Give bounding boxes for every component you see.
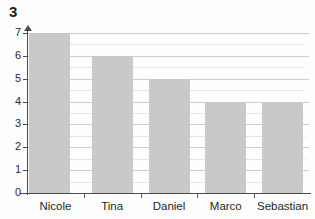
bar-marco [205, 102, 246, 193]
bar-sebastian [262, 102, 303, 193]
x-axis-label-nicole: Nicole [27, 199, 84, 213]
x-axis-tick-mark [197, 193, 198, 198]
bar-daniel [149, 79, 190, 193]
x-axis-tick-mark [84, 193, 85, 198]
y-axis-labels-group: 01234567 [0, 0, 21, 219]
x-axis-label-marco: Marco [197, 199, 254, 213]
x-axis-line [20, 193, 311, 194]
y-axis-tick-mark [23, 170, 28, 171]
y-axis-tick-label: 6 [5, 50, 21, 61]
y-axis-tick-mark [23, 102, 28, 103]
bar-tina [92, 56, 133, 193]
plot-area [27, 33, 311, 193]
y-axis-tick-mark [23, 33, 28, 34]
x-axis-label-sebastian: Sebastian [254, 199, 311, 213]
y-axis-tick-label: 7 [5, 27, 21, 38]
y-axis-tick-label: 5 [5, 73, 21, 84]
y-axis-tick-label: 4 [5, 96, 21, 107]
y-axis-tick-mark [23, 124, 28, 125]
y-axis-tick-mark [23, 79, 28, 80]
y-axis-tick-label: 1 [5, 164, 21, 175]
x-axis-tick-mark [254, 193, 255, 198]
y-axis-tick-label: 3 [5, 118, 21, 129]
bar-nicole [29, 33, 70, 193]
y-axis-tick-label: 2 [5, 141, 21, 152]
x-axis-tick-mark [141, 193, 142, 198]
figure-container: 3 01234567 NicoleTinaDanielMarcoSebastia… [0, 0, 315, 219]
y-axis-tick-mark [23, 56, 28, 57]
y-axis-tick-mark [23, 193, 28, 194]
x-axis-label-tina: Tina [84, 199, 141, 213]
y-axis-tick-mark [23, 147, 28, 148]
x-axis-label-daniel: Daniel [141, 199, 198, 213]
y-axis-tick-label: 0 [5, 187, 21, 198]
